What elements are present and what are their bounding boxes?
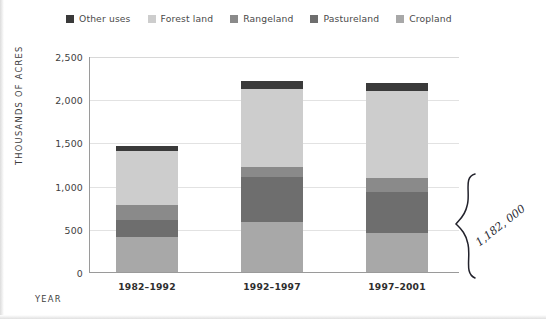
page-edge-shadow-left (0, 0, 4, 319)
bar-segment-forest-land (116, 151, 178, 205)
bar-segment-forest-land (241, 89, 303, 167)
bar-segment-other-uses (241, 81, 303, 89)
page-edge-shadow-bottom (0, 315, 546, 319)
bar-segment-cropland (241, 222, 303, 272)
handwritten-annotation: 1,182, 000 (455, 172, 543, 280)
bar-segment-pastureland (241, 177, 303, 222)
bar-segment-cropland (366, 233, 428, 272)
legend-label: Rangeland (243, 14, 293, 23)
x-tick-label: 1997–2001 (368, 281, 426, 292)
y-axis-title: THOUSANDS OF ACRES (14, 45, 24, 165)
bar-segment-pastureland (366, 192, 428, 233)
bar-segment-forest-land (366, 91, 428, 178)
gridline-2500: 2,500 (90, 57, 459, 58)
x-tick-label: 1992–1997 (243, 281, 301, 292)
y-tick-label: 2,000 (55, 95, 83, 106)
bar-segment-rangeland (366, 178, 428, 192)
legend-item-cropland[interactable]: Cropland (396, 14, 451, 23)
legend-swatch-icon (396, 15, 404, 23)
bar-segment-cropland (116, 237, 178, 272)
chart-page: Other uses Forest land Rangeland Pasture… (0, 0, 546, 319)
bar-1992-1997[interactable]: 1992–1997 (241, 81, 303, 272)
legend-item-rangeland[interactable]: Rangeland (230, 14, 293, 23)
legend-swatch-icon (310, 15, 318, 23)
y-tick-label: 2,500 (55, 52, 83, 63)
bar-segment-other-uses (366, 83, 428, 91)
y-tick-label: 0 (77, 268, 83, 279)
y-tick-label: 1,000 (55, 181, 83, 192)
legend-label: Other uses (79, 14, 131, 23)
legend-item-pastureland[interactable]: Pastureland (310, 14, 379, 23)
legend-label: Cropland (409, 14, 451, 23)
x-tick-label: 1982–1992 (118, 281, 176, 292)
legend-item-forest-land[interactable]: Forest land (148, 14, 214, 23)
gridline-0: 0 (90, 273, 459, 274)
bar-1982-1992[interactable]: 1982–1992 (116, 146, 178, 272)
curly-brace-icon (455, 172, 495, 280)
bar-segment-rangeland (116, 205, 178, 220)
legend-item-other-uses[interactable]: Other uses (66, 14, 131, 23)
annotation-value-text: 1,182, 000 (473, 202, 528, 249)
legend-label: Forest land (161, 14, 214, 23)
y-tick-label: 1,500 (55, 138, 83, 149)
bar-segment-pastureland (116, 220, 178, 237)
chart-legend: Other uses Forest land Rangeland Pasture… (66, 11, 452, 27)
y-tick-label: 500 (65, 224, 84, 235)
bar-1997-2001[interactable]: 1997–2001 (366, 83, 428, 272)
legend-swatch-icon (148, 15, 156, 23)
plot-area: 2,500 2,000 1,500 1,000 500 0 1982–1992 (89, 57, 459, 273)
legend-swatch-icon (66, 15, 74, 23)
legend-swatch-icon (230, 15, 238, 23)
legend-label: Pastureland (323, 14, 379, 23)
x-axis-title: YEAR (35, 294, 62, 304)
bar-segment-rangeland (241, 167, 303, 177)
